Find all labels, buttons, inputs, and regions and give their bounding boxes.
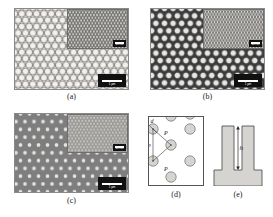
panel-b-inset-scalebar: 200 nm — [249, 40, 262, 47]
lattice-circle — [185, 124, 195, 134]
lattice-circle — [185, 156, 195, 166]
panel-c-caption: (c) — [14, 196, 129, 205]
panel-a-inset-scalebar: 200 nm — [113, 40, 126, 47]
panel-c-inset: 200 nm — [67, 114, 128, 153]
panel-c-inset-scalebar: 200 nm — [113, 144, 126, 151]
lattice-circle — [166, 117, 176, 121]
pitch-label-top: P — [163, 130, 168, 136]
panel-b-inset: 200 nm — [203, 9, 264, 49]
panel-a-micrograph: 200 nm 1 µm — [14, 8, 129, 90]
pitch-label-left: P — [149, 143, 151, 149]
scalebar-label: 1 µm — [245, 83, 252, 86]
lattice-circle — [185, 117, 195, 119]
panel-c-micrograph: 200 nm 1 µm — [14, 113, 129, 193]
panel-a-inset: 200 nm — [67, 9, 128, 49]
height-label: h — [240, 144, 244, 152]
panel-d-svg: d P P P — [149, 117, 203, 185]
scalebar-label: 200 nm — [116, 148, 124, 151]
panel-d-schematic: d P P P — [148, 116, 204, 186]
panel-a-caption: (a) — [14, 92, 129, 101]
pitch-label-bottom: P — [163, 166, 168, 172]
panel-e-svg: h — [212, 116, 264, 186]
figure-root: 200 nm 1 µm (a) 200 nm 1 µm (b) — [0, 0, 273, 217]
panel-d-caption: (d) — [148, 190, 204, 199]
panel-e-schematic: h — [212, 116, 264, 186]
lattice-circle — [166, 172, 176, 182]
scalebar-label: 1 µm — [109, 186, 116, 189]
panel-c-scalebar: 1 µm — [98, 177, 126, 190]
diameter-label: d — [151, 118, 155, 124]
panel-e-caption: (e) — [212, 190, 264, 199]
scalebar-label: 200 nm — [252, 44, 260, 47]
scalebar-label: 200 nm — [116, 44, 124, 47]
panel-b-micrograph: 200 nm 1 µm — [150, 8, 265, 90]
panel-b-scalebar: 1 µm — [234, 74, 262, 87]
panel-a-scalebar: 1 µm — [98, 74, 126, 87]
scalebar-label: 1 µm — [109, 83, 116, 86]
panel-b-caption: (b) — [150, 92, 265, 101]
